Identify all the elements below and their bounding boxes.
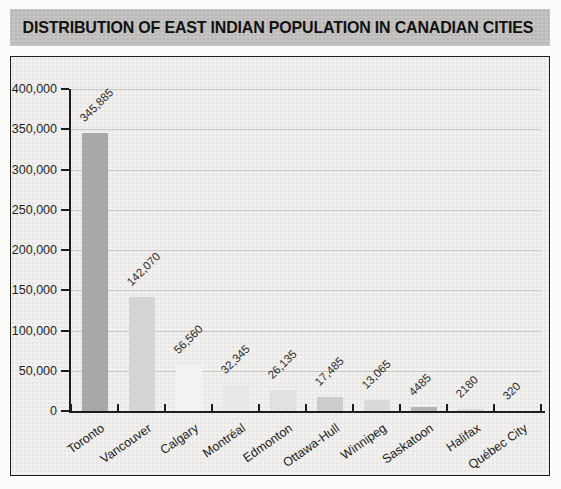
- bar-winnipeg: [364, 400, 390, 411]
- y-axis-tick-label: 200,000: [5, 243, 57, 257]
- x-axis: [69, 411, 545, 413]
- bar-vancouver: [129, 297, 155, 411]
- bar-toronto: [82, 133, 108, 411]
- y-axis-tick-label: 350,000: [5, 122, 57, 136]
- gridline-300000: [71, 170, 541, 171]
- gridline-250000: [71, 210, 541, 211]
- gridline-150000: [71, 290, 541, 291]
- bar-value-label: 2180: [453, 374, 480, 401]
- y-axis-tick-label: 150,000: [5, 283, 57, 297]
- y-axis-tick-label: 300,000: [5, 163, 57, 177]
- y-axis-tick-400,000: [61, 88, 69, 90]
- bar-value-label: 320: [500, 380, 522, 402]
- y-axis-tick-150,000: [61, 289, 69, 291]
- bar-calgary: [176, 365, 202, 411]
- x-axis-tick: [540, 404, 542, 411]
- chart-title-banner: DISTRIBUTION OF EAST INDIAN POPULATION I…: [10, 9, 550, 46]
- bar-value-label: 345,885: [77, 86, 115, 124]
- x-axis-tick: [399, 404, 401, 411]
- x-axis-tick: [117, 404, 119, 411]
- chart-area: 345,885142,07056,56032,34526,13517,48513…: [10, 56, 550, 476]
- y-axis-tick-label: 100,000: [5, 324, 57, 338]
- gridline-400000: [71, 89, 541, 90]
- y-axis-tick-label: 50,000: [5, 364, 57, 378]
- gridline-200000: [71, 250, 541, 251]
- y-axis-tick-300,000: [61, 169, 69, 171]
- bar-value-label: 142,070: [124, 250, 162, 288]
- figure: DISTRIBUTION OF EAST INDIAN POPULATION I…: [0, 0, 561, 489]
- bar-value-label: 4485: [406, 372, 433, 399]
- y-axis-tick-label: 400,000: [5, 82, 57, 96]
- bar-ottawa-hull: [317, 397, 343, 411]
- bar-montr-al: [223, 385, 249, 411]
- y-axis-tick-label: 250,000: [5, 203, 57, 217]
- bar-value-label: 56,560: [171, 323, 204, 356]
- bar-value-label: 13,065: [359, 358, 392, 391]
- y-axis-tick-50,000: [61, 370, 69, 372]
- bar-value-label: 26,135: [265, 348, 298, 381]
- y-axis-tick-250,000: [61, 209, 69, 211]
- bar-edmonton: [270, 390, 296, 411]
- x-axis-tick: [70, 404, 72, 411]
- plot-area: 345,885142,07056,56032,34526,13517,48513…: [11, 57, 549, 475]
- x-axis-tick: [352, 404, 354, 411]
- x-axis-tick: [211, 404, 213, 411]
- x-axis-tick: [258, 404, 260, 411]
- y-axis-tick-0: [61, 410, 69, 412]
- y-axis-tick-label: 0: [5, 404, 57, 418]
- y-axis-tick-200,000: [61, 249, 69, 251]
- x-axis-tick: [446, 404, 448, 411]
- x-axis-tick: [164, 404, 166, 411]
- chart-title: DISTRIBUTION OF EAST INDIAN POPULATION I…: [10, 18, 533, 37]
- x-axis-tick: [493, 404, 495, 411]
- x-axis-tick: [305, 404, 307, 411]
- y-axis-tick-100,000: [61, 330, 69, 332]
- y-axis-tick-350,000: [61, 128, 69, 130]
- x-axis-category-label: Toronto: [8, 421, 106, 489]
- gridline-350000: [71, 129, 541, 130]
- y-axis: [69, 89, 71, 413]
